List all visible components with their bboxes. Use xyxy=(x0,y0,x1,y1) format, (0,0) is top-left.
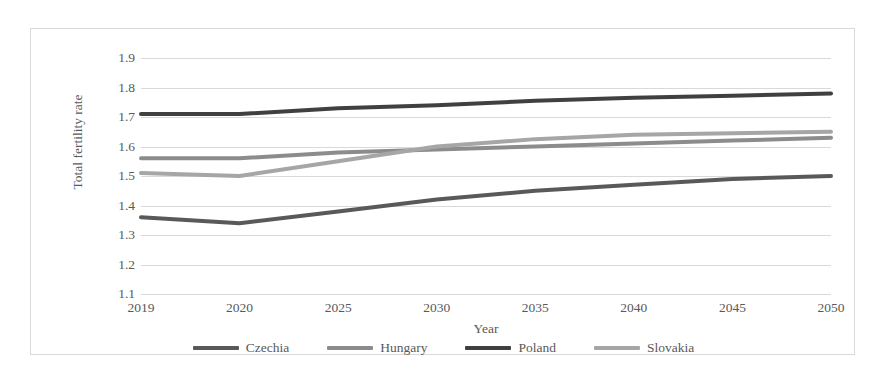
gridline xyxy=(141,294,831,295)
y-axis-tick-label: 1.8 xyxy=(95,81,135,95)
chart-container: Total fertility rate 1.91.81.71.61.51.41… xyxy=(30,28,855,355)
x-axis-tick-label: 2025 xyxy=(308,301,368,315)
x-axis-tick-label: 2045 xyxy=(702,301,762,315)
y-axis-tick-label: 1.7 xyxy=(95,110,135,124)
chart-legend: CzechiaHungaryPolandSlovakia xyxy=(31,341,856,355)
legend-label: Slovakia xyxy=(647,341,694,355)
legend-swatch-icon xyxy=(465,346,511,350)
legend-label: Czechia xyxy=(246,341,289,355)
y-axis-tick-label: 1.9 xyxy=(95,51,135,65)
legend-item-poland[interactable]: Poland xyxy=(465,341,556,355)
x-axis-tick-label: 2030 xyxy=(407,301,467,315)
y-axis-tick-label: 1.6 xyxy=(95,140,135,154)
x-axis-tick-label: 2035 xyxy=(505,301,565,315)
x-axis-tick-label: 2019 xyxy=(111,301,171,315)
x-axis-tick-label: 2050 xyxy=(801,301,861,315)
y-axis-tick-label: 1.5 xyxy=(95,169,135,183)
legend-swatch-icon xyxy=(193,346,239,350)
legend-swatch-icon xyxy=(594,346,640,350)
y-axis-tick-label: 1.2 xyxy=(95,258,135,272)
series-lines xyxy=(141,58,831,294)
series-line-hungary xyxy=(141,138,831,159)
legend-swatch-icon xyxy=(327,346,373,350)
y-axis-tick-label: 1.4 xyxy=(95,199,135,213)
y-axis-tick-labels: 1.91.81.71.61.51.41.31.21.1 xyxy=(83,58,135,294)
legend-item-hungary[interactable]: Hungary xyxy=(327,341,427,355)
x-axis-tick-label: 2020 xyxy=(210,301,270,315)
legend-label: Hungary xyxy=(380,341,427,355)
y-axis-tick-label: 1.1 xyxy=(95,287,135,301)
legend-item-slovakia[interactable]: Slovakia xyxy=(594,341,694,355)
x-axis-title: Year xyxy=(141,321,831,337)
series-line-czechia xyxy=(141,176,831,223)
series-line-poland xyxy=(141,93,831,114)
x-axis-tick-label: 2040 xyxy=(604,301,664,315)
series-line-slovakia xyxy=(141,132,831,176)
plot-area xyxy=(141,58,831,294)
legend-item-czechia[interactable]: Czechia xyxy=(193,341,289,355)
x-axis-tick-labels: 20192020202520302035204020452050 xyxy=(141,301,831,319)
legend-label: Poland xyxy=(518,341,556,355)
y-axis-tick-label: 1.3 xyxy=(95,228,135,242)
